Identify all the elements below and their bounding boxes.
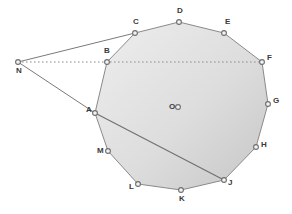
vertex-label-k: K: [179, 195, 185, 203]
vertex-marker-n: [16, 60, 21, 65]
vertex-label-a: A: [86, 106, 92, 114]
vertex-marker-k: [179, 188, 184, 193]
vertex-label-d: D: [177, 7, 183, 15]
vertex-label-j: J: [228, 179, 232, 187]
vertex-label-l: L: [129, 183, 134, 191]
vertex-label-e: E: [225, 18, 230, 26]
vertex-marker-e: [222, 31, 227, 36]
vertex-marker-m: [106, 149, 111, 154]
segment-n-to-a: [18, 62, 95, 113]
vertex-label-m: M: [97, 147, 104, 155]
vertex-label-c: C: [133, 18, 139, 26]
vertex-label-h: H: [261, 141, 267, 149]
vertex-marker-b: [105, 60, 110, 65]
vertex-marker-l: [136, 182, 141, 187]
polygon-shape: [95, 22, 268, 190]
vertex-label-o: O: [169, 103, 175, 111]
vertex-marker-g: [266, 102, 271, 107]
vertex-marker-f: [260, 60, 265, 65]
vertex-marker-o: [176, 105, 181, 110]
vertex-marker-j: [222, 178, 227, 183]
vertex-label-n: N: [16, 67, 22, 75]
geometry-figure: ABCDEFGHJKLMON: [0, 0, 292, 214]
vertex-marker-a: [93, 111, 98, 116]
vertex-marker-c: [133, 31, 138, 36]
vertex-label-g: G: [273, 97, 279, 105]
vertex-marker-h: [254, 145, 259, 150]
vertex-marker-d: [177, 20, 182, 25]
vertex-label-b: B: [104, 47, 110, 55]
geometry-canvas: [0, 0, 292, 214]
vertex-label-f: F: [267, 54, 272, 62]
